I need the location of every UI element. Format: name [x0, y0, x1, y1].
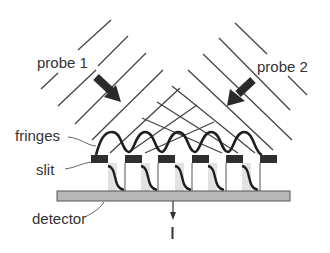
- fringes-curve: [96, 132, 262, 155]
- transmitted-shadows: [108, 163, 251, 191]
- probe2-label: probe 2: [257, 59, 308, 74]
- probe1-arrow-icon: [96, 77, 121, 102]
- probe1-label: probe 1: [37, 55, 88, 70]
- fringes-label: fringes: [15, 128, 60, 143]
- slit-label: slit: [36, 162, 54, 177]
- probe1-wavefronts: [41, 20, 214, 153]
- output-arrow-icon: [170, 201, 176, 220]
- probe2-wavefronts: [142, 23, 307, 153]
- detector-bar: [57, 191, 290, 201]
- probe2-arrow-icon: [227, 80, 253, 106]
- slit-array: [91, 155, 277, 163]
- detector-label: detector: [32, 211, 86, 226]
